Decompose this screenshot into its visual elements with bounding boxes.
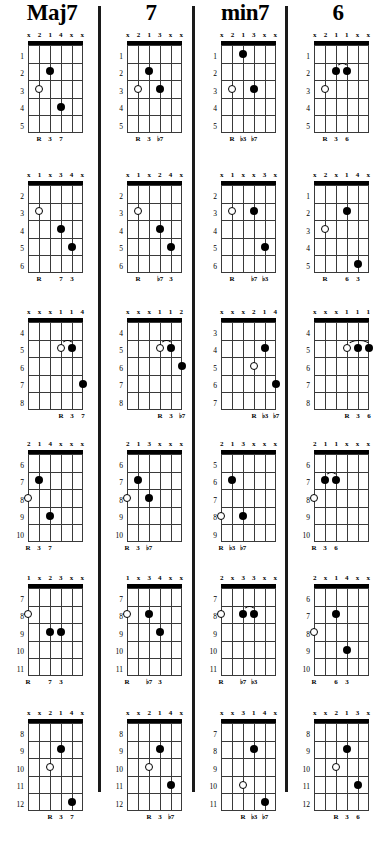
finger-number: 1 <box>144 30 155 41</box>
finger-number: 1 <box>341 307 352 318</box>
chord-tone-marker[interactable] <box>365 344 373 352</box>
finger-number-row: 211xxx <box>309 439 373 450</box>
chord-tone-marker[interactable] <box>57 225 65 233</box>
chord-diagram[interactable]: xx314x7891011R♭3♭7 <box>198 708 292 838</box>
interval-label: ♭7 <box>166 812 177 823</box>
chord-tone-marker[interactable] <box>46 512 54 520</box>
chord-tone-marker[interactable] <box>156 225 164 233</box>
chord-tone-marker[interactable] <box>343 646 351 654</box>
finger-number-row: 2x33xx <box>216 573 280 584</box>
interval-label: 3 <box>45 134 56 145</box>
fret-number: 7 <box>213 497 217 505</box>
chord-tone-marker[interactable] <box>57 628 65 636</box>
interval-label: R <box>320 274 331 285</box>
chord-diagram[interactable]: xxx11145678R36 <box>291 307 377 437</box>
chord-diagram[interactable]: x213xx12345R3♭7 <box>104 30 198 160</box>
root-note-marker[interactable] <box>145 763 153 771</box>
interval-label: R <box>122 677 133 688</box>
chord-tone-marker[interactable] <box>68 243 76 251</box>
chord-diagram[interactable]: 2x33xx7891011R♭7♭3 <box>198 573 292 703</box>
root-note-marker[interactable] <box>250 362 258 370</box>
muted-string-marker: x <box>248 170 259 181</box>
chord-diagram[interactable]: xx213x89101112R36 <box>291 708 377 838</box>
fret-number: 10 <box>17 766 25 774</box>
fret-line <box>314 98 369 99</box>
chord-tone-marker[interactable] <box>46 628 54 636</box>
chord-diagram[interactable]: x211xx12345R36 <box>291 30 377 160</box>
string-line <box>232 185 233 273</box>
chord-tone-marker[interactable] <box>239 512 247 520</box>
chord-diagram[interactable]: x2x14x12345R63 <box>291 170 377 300</box>
interval-label: ♭3 <box>227 543 238 554</box>
fret-line <box>28 454 83 455</box>
chord-tone-marker[interactable] <box>145 494 153 502</box>
muted-string-marker: x <box>34 708 45 719</box>
muted-string-marker: x <box>176 573 187 584</box>
chord-diagram[interactable]: 213xxx56789R♭3♭7 <box>198 439 292 569</box>
muted-string-marker: x <box>144 307 155 318</box>
chord-diagram[interactable]: 2x14xx678910R63 <box>291 573 377 703</box>
muted-string-marker: x <box>77 439 88 450</box>
chord-tone-marker[interactable] <box>156 628 164 636</box>
chord-diagram[interactable]: x214xx12345R37 <box>5 30 99 160</box>
fret-line <box>127 220 182 221</box>
interval-label-row: R♭73 <box>122 677 188 688</box>
chord-diagram[interactable]: x1x24x23456R♭73 <box>104 170 198 300</box>
chord-diagram[interactable]: x213xx12345R♭3♭7 <box>198 30 292 160</box>
string-line <box>275 588 276 676</box>
chord-diagram[interactable]: xxx21434567R♭3♭7 <box>198 307 292 437</box>
string-fret-lines <box>28 588 83 676</box>
chord-diagram[interactable]: x1x34x23456R73 <box>5 170 99 300</box>
chord-tone-marker[interactable] <box>178 362 186 370</box>
chord-chart-sheet: Maj7x214xx12345R37x1x34x23456R73xxx11445… <box>0 0 377 846</box>
fret-number: 8 <box>119 400 123 408</box>
chord-diagram[interactable]: 211xxx678910R36 <box>291 439 377 569</box>
string-line <box>171 322 172 410</box>
chord-tone-marker[interactable] <box>79 380 87 388</box>
chord-tone-marker[interactable] <box>167 243 175 251</box>
fret-line <box>28 675 83 676</box>
root-note-marker[interactable] <box>310 628 318 636</box>
interval-label <box>364 134 375 145</box>
root-note-marker[interactable] <box>134 85 142 93</box>
interval-label <box>353 543 364 554</box>
root-note-marker[interactable] <box>310 494 318 502</box>
root-note-marker[interactable] <box>239 781 247 789</box>
root-note-marker[interactable] <box>46 763 54 771</box>
chord-diagram[interactable]: xx214x89101112R37 <box>5 708 99 838</box>
root-note-marker[interactable] <box>321 225 329 233</box>
string-line <box>243 45 244 133</box>
chord-tone-marker[interactable] <box>272 380 280 388</box>
chord-diagram[interactable]: xx214x89101112R3♭7 <box>104 708 198 838</box>
root-note-marker[interactable] <box>217 512 225 520</box>
interval-label: R <box>216 543 227 554</box>
interval-label <box>364 812 375 823</box>
interval-label-row: R63 <box>309 274 375 285</box>
chord-diagram[interactable]: 214xxx678910R37 <box>5 439 99 569</box>
chord-diagram[interactable]: xxx11445678R37 <box>5 307 99 437</box>
chord-diagram[interactable]: x1xx3x23456R♭7♭3 <box>198 170 292 300</box>
fret-line <box>314 489 369 490</box>
finger-number: 4 <box>77 307 88 318</box>
chord-tone-marker[interactable] <box>250 85 258 93</box>
chord-diagram[interactable]: 1x34xx7891011R♭73 <box>104 573 198 703</box>
chord-tone-marker[interactable] <box>156 85 164 93</box>
chord-tone-marker[interactable] <box>167 781 175 789</box>
root-note-marker[interactable] <box>123 494 131 502</box>
chord-tone-marker[interactable] <box>57 103 65 111</box>
chord-diagram[interactable]: 1x23xx7891011R73 <box>5 573 99 703</box>
root-note-marker[interactable] <box>24 494 32 502</box>
root-note-marker[interactable] <box>228 85 236 93</box>
interval-label <box>166 543 177 554</box>
chord-tone-marker[interactable] <box>354 781 362 789</box>
chord-diagram[interactable]: 213xxx678910R3♭7 <box>104 439 198 569</box>
root-note-marker[interactable] <box>35 85 43 93</box>
chord-diagram[interactable]: xxx11245678R3♭7 <box>104 307 198 437</box>
fret-number-column: 12345 <box>291 41 312 133</box>
chord-tone-marker[interactable] <box>261 243 269 251</box>
root-note-marker[interactable] <box>332 763 340 771</box>
muted-string-marker: x <box>66 573 77 584</box>
root-note-marker[interactable] <box>321 85 329 93</box>
string-line <box>336 322 337 410</box>
chord-tone-marker[interactable] <box>239 50 247 58</box>
